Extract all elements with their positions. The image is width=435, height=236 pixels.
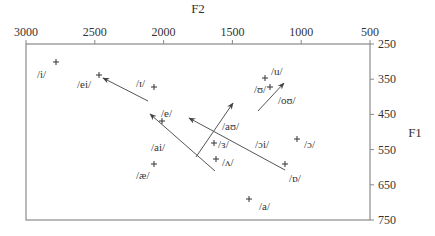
label-o: /ɒ/ [289, 172, 302, 184]
marker-aw [294, 136, 300, 142]
y-tick-450: 450 [378, 107, 396, 121]
label-au: /aʊ/ [222, 120, 240, 132]
label-ai: /ai/ [151, 141, 166, 153]
marker-i [53, 59, 59, 65]
label-e: /e/ [161, 107, 173, 119]
label-aw: /ɔ/ [304, 138, 316, 150]
plot-frame [26, 44, 370, 220]
y-axis-title: F1 [408, 125, 422, 140]
label-oi: /ɔi/ [255, 138, 270, 150]
x-axis: 3000 2500 2000 1500 1000 500 [14, 25, 379, 44]
label-er: /ɜ/ [218, 138, 230, 150]
marker-u [262, 75, 268, 81]
x-tick-1000: 1000 [289, 25, 313, 39]
formant-chart: F2 F1 3000 2500 2000 1500 1000 500 250 3… [0, 0, 435, 236]
label-i: /i/ [37, 68, 47, 80]
label-a: /a/ [259, 200, 271, 212]
y-tick-650: 650 [378, 178, 396, 192]
marker-uh [213, 156, 219, 162]
marker-o [282, 161, 288, 167]
x-axis-title: F2 [191, 1, 205, 16]
label-U: /ʊ/ [254, 83, 267, 95]
y-tick-250: 250 [378, 37, 396, 51]
x-tick-2500: 2500 [83, 25, 107, 39]
vowel-labels: /i/ /ei/ /ɪ/ /e/ /ai/ /æ/ /aʊ/ /ɜ/ /ʌ/ /… [37, 65, 316, 212]
x-tick-3000: 3000 [14, 25, 38, 39]
y-tick-550: 550 [378, 143, 396, 157]
marker-I [151, 84, 157, 90]
y-tick-350: 350 [378, 72, 396, 86]
marker-ae [151, 161, 157, 167]
y-tick-750: 750 [378, 213, 396, 227]
marker-U [267, 84, 273, 90]
label-ei: /ei/ [77, 78, 92, 90]
label-I: /ɪ/ [136, 77, 146, 89]
x-tick-500: 500 [361, 25, 379, 39]
x-tick-2000: 2000 [152, 25, 176, 39]
marker-a [246, 196, 252, 202]
label-uh: /ʌ/ [222, 156, 235, 168]
marker-ei [96, 72, 102, 78]
marker-er [211, 140, 217, 146]
y-axis: 250 350 450 550 650 750 [370, 37, 396, 227]
label-ou: /oʊ/ [278, 94, 297, 106]
label-ae: /æ/ [136, 169, 150, 181]
label-u: /u/ [271, 65, 284, 77]
x-tick-1500: 1500 [220, 25, 244, 39]
